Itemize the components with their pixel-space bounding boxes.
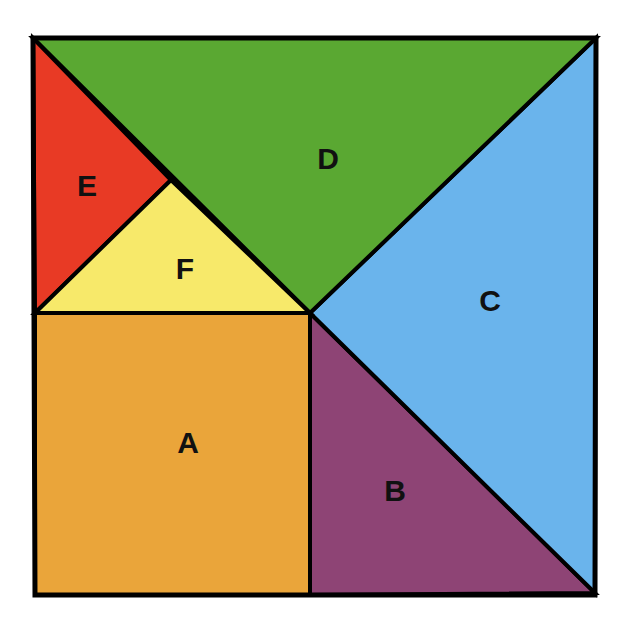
label-b: B: [384, 474, 406, 507]
label-a: A: [177, 426, 199, 459]
label-c: C: [479, 284, 501, 317]
piece-a: [35, 313, 310, 595]
label-e: E: [77, 169, 97, 202]
label-f: F: [176, 252, 194, 285]
tangram-diagram: A B C D E F: [0, 0, 624, 623]
label-d: D: [317, 142, 339, 175]
